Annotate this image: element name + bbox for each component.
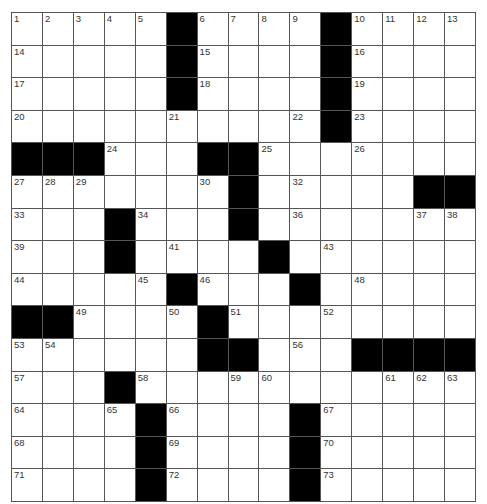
crossword-cell[interactable]: 49 (74, 306, 104, 338)
crossword-cell[interactable]: 73 (321, 469, 351, 501)
crossword-cell[interactable]: 33 (12, 209, 42, 241)
crossword-cell[interactable] (445, 241, 475, 273)
crossword-cell[interactable] (259, 339, 289, 371)
crossword-cell[interactable] (43, 209, 73, 241)
crossword-cell[interactable]: 68 (12, 437, 42, 469)
crossword-cell[interactable]: 69 (167, 437, 197, 469)
crossword-cell[interactable]: 1 (12, 13, 42, 45)
crossword-cell[interactable] (136, 111, 166, 143)
crossword-cell[interactable] (259, 111, 289, 143)
crossword-cell[interactable]: 41 (167, 241, 197, 273)
crossword-cell[interactable] (414, 306, 444, 338)
crossword-cell[interactable] (352, 241, 382, 273)
crossword-cell[interactable] (198, 372, 228, 404)
crossword-cell[interactable]: 60 (259, 372, 289, 404)
crossword-cell[interactable] (105, 469, 135, 501)
crossword-cell[interactable] (414, 404, 444, 436)
crossword-cell[interactable] (229, 111, 259, 143)
crossword-cell[interactable] (414, 274, 444, 306)
crossword-cell[interactable]: 13 (445, 13, 475, 45)
crossword-cell[interactable]: 15 (198, 46, 228, 78)
crossword-cell[interactable]: 29 (74, 176, 104, 208)
crossword-cell[interactable]: 2 (43, 13, 73, 45)
crossword-cell[interactable] (74, 437, 104, 469)
crossword-cell[interactable] (445, 111, 475, 143)
crossword-cell[interactable]: 8 (259, 13, 289, 45)
crossword-cell[interactable] (259, 78, 289, 110)
crossword-cell[interactable]: 43 (321, 241, 351, 273)
crossword-cell[interactable]: 19 (352, 78, 382, 110)
crossword-cell[interactable]: 56 (290, 339, 320, 371)
crossword-cell[interactable] (43, 469, 73, 501)
crossword-cell[interactable] (259, 46, 289, 78)
crossword-cell[interactable]: 34 (136, 209, 166, 241)
crossword-cell[interactable] (321, 274, 351, 306)
crossword-cell[interactable] (290, 143, 320, 175)
crossword-cell[interactable] (383, 176, 413, 208)
crossword-cell[interactable] (259, 437, 289, 469)
crossword-cell[interactable] (198, 111, 228, 143)
crossword-cell[interactable] (43, 437, 73, 469)
crossword-cell[interactable] (321, 339, 351, 371)
crossword-cell[interactable]: 65 (105, 404, 135, 436)
crossword-cell[interactable]: 22 (290, 111, 320, 143)
crossword-cell[interactable] (105, 46, 135, 78)
crossword-cell[interactable]: 45 (136, 274, 166, 306)
crossword-cell[interactable] (290, 241, 320, 273)
crossword-cell[interactable] (229, 274, 259, 306)
crossword-cell[interactable] (290, 372, 320, 404)
crossword-cell[interactable] (74, 111, 104, 143)
crossword-cell[interactable]: 48 (352, 274, 382, 306)
crossword-cell[interactable] (136, 339, 166, 371)
crossword-cell[interactable] (259, 404, 289, 436)
crossword-cell[interactable] (445, 306, 475, 338)
crossword-cell[interactable] (352, 372, 382, 404)
crossword-cell[interactable]: 24 (105, 143, 135, 175)
crossword-cell[interactable] (43, 111, 73, 143)
crossword-cell[interactable]: 6 (198, 13, 228, 45)
crossword-cell[interactable] (229, 404, 259, 436)
crossword-cell[interactable]: 71 (12, 469, 42, 501)
crossword-cell[interactable] (290, 306, 320, 338)
crossword-cell[interactable] (74, 372, 104, 404)
crossword-cell[interactable] (414, 241, 444, 273)
crossword-cell[interactable]: 16 (352, 46, 382, 78)
crossword-cell[interactable]: 38 (445, 209, 475, 241)
crossword-cell[interactable] (105, 306, 135, 338)
crossword-cell[interactable] (43, 78, 73, 110)
crossword-cell[interactable] (383, 241, 413, 273)
crossword-cell[interactable] (74, 241, 104, 273)
crossword-cell[interactable] (136, 176, 166, 208)
crossword-cell[interactable] (198, 209, 228, 241)
crossword-cell[interactable] (136, 78, 166, 110)
crossword-cell[interactable] (352, 469, 382, 501)
crossword-cell[interactable] (321, 143, 351, 175)
crossword-cell[interactable]: 46 (198, 274, 228, 306)
crossword-cell[interactable] (167, 176, 197, 208)
crossword-cell[interactable]: 53 (12, 339, 42, 371)
crossword-cell[interactable]: 63 (445, 372, 475, 404)
crossword-cell[interactable] (321, 372, 351, 404)
crossword-cell[interactable] (259, 176, 289, 208)
crossword-cell[interactable] (290, 46, 320, 78)
crossword-cell[interactable]: 30 (198, 176, 228, 208)
crossword-cell[interactable] (414, 111, 444, 143)
crossword-cell[interactable] (167, 339, 197, 371)
crossword-cell[interactable] (74, 469, 104, 501)
crossword-cell[interactable] (352, 306, 382, 338)
crossword-cell[interactable] (74, 78, 104, 110)
crossword-cell[interactable]: 14 (12, 46, 42, 78)
crossword-cell[interactable] (136, 241, 166, 273)
crossword-cell[interactable]: 39 (12, 241, 42, 273)
crossword-cell[interactable]: 12 (414, 13, 444, 45)
crossword-cell[interactable] (383, 437, 413, 469)
crossword-cell[interactable] (74, 274, 104, 306)
crossword-cell[interactable]: 57 (12, 372, 42, 404)
crossword-cell[interactable]: 54 (43, 339, 73, 371)
crossword-cell[interactable]: 9 (290, 13, 320, 45)
crossword-cell[interactable] (321, 176, 351, 208)
crossword-cell[interactable]: 21 (167, 111, 197, 143)
crossword-cell[interactable] (445, 143, 475, 175)
crossword-cell[interactable] (105, 437, 135, 469)
crossword-cell[interactable] (74, 46, 104, 78)
